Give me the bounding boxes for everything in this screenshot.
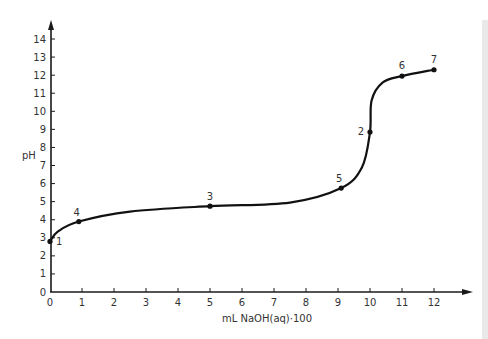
x-tick-label: 0 [47, 297, 53, 308]
data-point-marker [431, 67, 436, 72]
x-axis-arrow-icon [462, 289, 473, 295]
x-tick-label: 5 [207, 297, 213, 308]
data-point-marker [207, 204, 212, 209]
x-tick-label: 9 [335, 297, 341, 308]
x-tick-label: 7 [271, 297, 277, 308]
data-point-label: 3 [207, 191, 213, 202]
y-tick-label: 2 [40, 250, 46, 261]
y-tick-label: 11 [33, 88, 46, 99]
y-tick-label: 9 [40, 124, 46, 135]
y-tick-label: 10 [33, 106, 46, 117]
x-tick-label: 12 [428, 297, 441, 308]
side-scroll-strip [482, 20, 488, 339]
y-axis-arrow-icon [48, 20, 54, 30]
x-tick-label: 3 [143, 297, 149, 308]
y-tick-label: 7 [40, 160, 46, 171]
data-point-marker [76, 219, 81, 224]
y-tick-label: 12 [33, 70, 46, 81]
titration-curve-line [50, 70, 434, 242]
y-tick-label: 5 [40, 196, 46, 207]
axes [48, 20, 473, 295]
data-points: 1435267 [47, 54, 437, 248]
data-point-label: 7 [431, 54, 437, 65]
data-point-label: 2 [358, 126, 364, 137]
x-tick-label: 8 [303, 297, 309, 308]
y-tick-label: 14 [33, 34, 46, 45]
data-point-label: 1 [56, 236, 62, 247]
y-axis-label: pH [22, 150, 36, 161]
y-tick-label: 13 [33, 52, 46, 63]
data-point-label: 6 [399, 60, 405, 71]
x-tick-label: 11 [396, 297, 409, 308]
x-tick-label: 4 [175, 297, 181, 308]
x-axis-label: mL NaOH(aq)·100 [222, 313, 312, 324]
y-tick-label: 3 [40, 232, 46, 243]
y-tick-label: 1 [40, 268, 46, 279]
data-point-marker [339, 185, 344, 190]
y-tick-label: 6 [40, 178, 46, 189]
axis-ticks: 012345678910111213140123456789101112 [33, 34, 440, 308]
data-point-label: 5 [336, 173, 342, 184]
x-tick-label: 6 [239, 297, 245, 308]
x-tick-label: 10 [364, 297, 377, 308]
data-point-label: 4 [74, 207, 80, 218]
data-point-marker [47, 239, 52, 244]
y-tick-label: 8 [40, 142, 46, 153]
x-tick-label: 2 [111, 297, 117, 308]
data-point-marker [399, 73, 404, 78]
y-tick-label: 0 [40, 287, 46, 298]
y-tick-label: 4 [40, 214, 46, 225]
x-tick-label: 1 [79, 297, 85, 308]
titration-chart: 012345678910111213140123456789101112 pH … [0, 0, 488, 339]
data-point-marker [367, 129, 372, 134]
